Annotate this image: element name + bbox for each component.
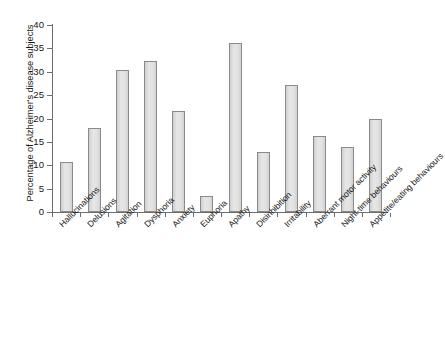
y-tick-label: 30 <box>14 66 44 77</box>
y-tick-label: 15 <box>14 136 44 147</box>
x-tick-mark <box>137 213 138 217</box>
y-tick-label: 5 <box>14 183 44 194</box>
x-tick-mark <box>249 213 250 217</box>
bar <box>60 162 73 212</box>
plot-area <box>52 25 390 212</box>
x-tick-mark <box>334 213 335 217</box>
bar <box>116 70 129 212</box>
bar <box>313 136 326 212</box>
x-tick-mark <box>108 213 109 217</box>
y-tick-label: 40 <box>14 19 44 30</box>
bar <box>257 152 270 212</box>
x-tick-mark <box>165 213 166 217</box>
x-tick-mark <box>80 213 81 217</box>
x-tick-mark <box>362 213 363 217</box>
y-tick-label: 25 <box>14 89 44 100</box>
x-tick-mark <box>52 213 53 217</box>
x-tick-mark <box>390 213 391 217</box>
y-tick-label: 10 <box>14 159 44 170</box>
y-tick-label: 0 <box>14 206 44 217</box>
x-tick-mark <box>306 213 307 217</box>
bar <box>229 43 242 212</box>
x-tick-mark <box>221 213 222 217</box>
y-tick-label: 35 <box>14 42 44 53</box>
x-tick-mark <box>193 213 194 217</box>
bar <box>172 111 185 212</box>
bar <box>144 61 157 212</box>
x-tick-mark <box>277 213 278 217</box>
y-tick-label: 20 <box>14 113 44 124</box>
